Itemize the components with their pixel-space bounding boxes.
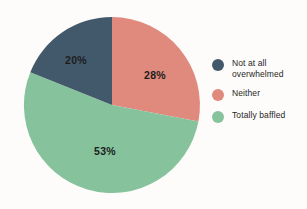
pie-label-neither: 28% bbox=[144, 69, 166, 81]
legend-item-label: Neither bbox=[232, 88, 260, 99]
legend-swatch-icon bbox=[212, 59, 224, 71]
pie-label-totally-baffled: 53% bbox=[94, 145, 116, 157]
legend: Not at all overwhelmed Neither Totally b… bbox=[212, 58, 307, 132]
legend-swatch-icon bbox=[212, 111, 224, 123]
legend-swatch-icon bbox=[212, 89, 224, 101]
legend-item-totally-baffled[interactable]: Totally baffled bbox=[212, 110, 307, 123]
legend-item-not-at-all-overwhelmed[interactable]: Not at all overwhelmed bbox=[212, 58, 307, 79]
legend-item-label: Totally baffled bbox=[232, 110, 285, 121]
legend-item-label: Not at all overwhelmed bbox=[232, 58, 307, 79]
legend-item-neither[interactable]: Neither bbox=[212, 88, 307, 101]
pie-label-not-at-all-overwhelmed: 20% bbox=[65, 54, 87, 66]
